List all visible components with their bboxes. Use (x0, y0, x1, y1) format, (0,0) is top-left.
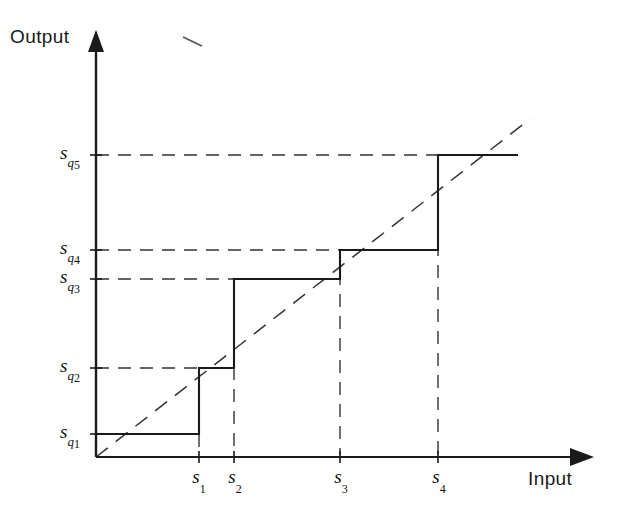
y-tick-label-sq4-index: 4 (74, 253, 80, 267)
quantizer-staircase (96, 155, 518, 434)
y-axis-arrow-icon (88, 30, 104, 52)
y-tick-label-sq5-index: 5 (74, 158, 80, 172)
quantizer-plot-canvas (0, 0, 620, 520)
identity-reference-line (96, 119, 530, 457)
x-tick-label-s2-index: 2 (236, 482, 242, 496)
y-tick-label-sq5-base: s (60, 142, 67, 163)
x-tick-label-s3-index: 3 (342, 482, 348, 496)
y-tick-label-sq5: sq5 (2, 142, 80, 168)
x-tick-label-s4-index: 4 (440, 482, 446, 496)
y-tick-label-sq3-index: 3 (74, 282, 80, 296)
axes (88, 30, 594, 466)
x-tick-label-s2: s2 (228, 466, 241, 492)
x-axis-arrow-icon (570, 448, 594, 466)
y-tick-label-sq4-base: s (60, 237, 67, 258)
y-tick-label-sq4: sq4 (2, 237, 80, 263)
y-tick-label-sq2-base: s (60, 355, 67, 376)
x-tick-label-s1-index: 1 (200, 482, 206, 496)
y-guide-lines (96, 155, 440, 434)
y-tick-label-sq2: sq2 (2, 355, 80, 381)
y-tick-label-sq3-base: s (60, 266, 67, 287)
x-tick-label-s4: s4 (432, 466, 445, 492)
y-tick-label-sq2-index: 2 (74, 371, 80, 385)
x-tick-label-s3: s3 (334, 466, 347, 492)
y-tick-label-sq1-base: s (60, 421, 67, 442)
y-tick-label-sq3: sq3 (2, 266, 80, 292)
y-tick-label-sq1: sq1 (2, 421, 80, 447)
y-tick-label-sq1-index: 1 (74, 437, 80, 451)
y-axis-title: Output (10, 26, 69, 48)
x-tick-label-s1: s1 (192, 466, 205, 492)
x-axis-title: Input (528, 468, 572, 490)
quantizer-figure: Output Input sq1 sq2 sq3 sq4 sq5 s1 s2 s… (0, 0, 620, 520)
